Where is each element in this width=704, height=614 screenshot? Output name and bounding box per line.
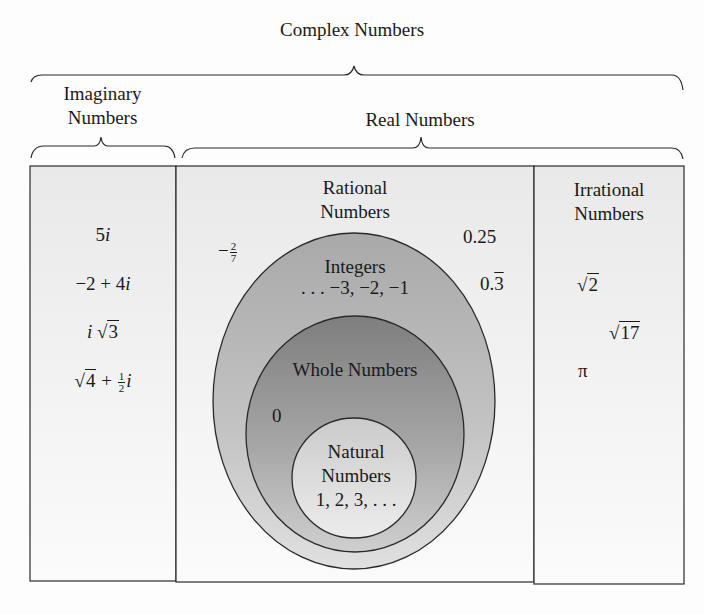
irrational-numbers-label: Irrational Numbers xyxy=(534,178,684,226)
whole-numbers-label: Whole Numbers xyxy=(270,358,440,382)
irrational-label-line2: Numbers xyxy=(534,202,684,226)
irrational-example-sqrt17: √17 xyxy=(609,322,640,344)
irrational-column xyxy=(534,166,684,584)
imaginary-brace xyxy=(31,137,175,158)
real-brace xyxy=(182,137,683,159)
imaginary-label-line1: Imaginary xyxy=(30,82,175,106)
imaginary-numbers-label: Imaginary Numbers xyxy=(30,82,175,130)
imaginary-example-neg2-plus-4i: −2 + 4i xyxy=(30,273,176,295)
whole-numbers-example-zero: 0 xyxy=(272,405,282,427)
rational-example-neg-2-7: −27 xyxy=(218,240,238,264)
integers-label: Integers xyxy=(280,255,430,279)
imaginary-example-5i: 5i xyxy=(30,224,176,246)
rational-numbers-label: Rational Numbers xyxy=(280,176,430,224)
imaginary-label-line2: Numbers xyxy=(30,106,175,130)
integers-examples: . . . −3, −2, −1 xyxy=(280,277,430,299)
rational-example-0-25: 0.25 xyxy=(463,226,496,248)
irrational-label-line1: Irrational xyxy=(534,178,684,202)
irrational-example-pi: π xyxy=(578,360,588,382)
imaginary-example-sqrt4-plus-half-i: √4 + 12i xyxy=(30,370,176,394)
natural-label-line2: Numbers xyxy=(294,464,418,488)
natural-label-line1: Natural xyxy=(294,440,418,464)
imaginary-example-i-sqrt3: i √3 xyxy=(30,321,176,343)
natural-numbers-examples: 1, 2, 3, . . . xyxy=(294,489,418,511)
real-numbers-label: Real Numbers xyxy=(300,108,540,132)
irrational-example-sqrt2: √2 xyxy=(577,274,599,296)
natural-numbers-label: Natural Numbers xyxy=(294,440,418,488)
rational-label-line2: Numbers xyxy=(280,200,430,224)
rational-label-line1: Rational xyxy=(280,176,430,200)
rational-example-0-3-repeating: 0.3 xyxy=(480,273,504,295)
complex-numbers-label: Complex Numbers xyxy=(202,18,502,42)
